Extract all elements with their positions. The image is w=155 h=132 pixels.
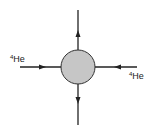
interaction-vertex-circle <box>61 50 95 84</box>
arrow-up-icon <box>76 30 81 37</box>
right-particle-label: 4He <box>129 72 144 81</box>
arrow-left-icon <box>114 65 121 70</box>
right-element-symbol: He <box>132 71 144 81</box>
right-mass-number: 4 <box>129 71 132 77</box>
left-mass-number: 4 <box>10 54 13 60</box>
left-element-symbol: He <box>13 54 25 64</box>
left-particle-label: 4He <box>10 55 25 64</box>
arrow-right-icon <box>39 65 46 70</box>
arrow-down-icon <box>76 97 81 104</box>
interaction-diagram <box>0 0 155 132</box>
